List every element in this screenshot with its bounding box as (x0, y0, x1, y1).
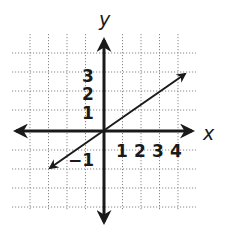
x-tick-2: 2 (134, 141, 146, 161)
y-axis-label: y (98, 8, 111, 30)
neg-one-label: −1 (68, 150, 94, 170)
x-tick-1: 1 (116, 141, 128, 161)
y-tick-2: 2 (82, 84, 94, 104)
y-tick-3: 3 (82, 66, 94, 86)
coordinate-plane: y x 3 2 1 1 2 3 4 −1 (0, 0, 227, 227)
x-axis-label: x (202, 122, 215, 144)
y-tick-1: 1 (82, 103, 94, 123)
x-tick-3: 3 (152, 141, 164, 161)
x-tick-4: 4 (170, 141, 182, 161)
